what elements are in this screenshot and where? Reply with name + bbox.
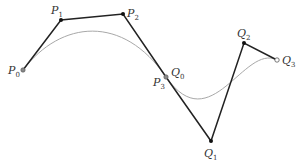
label-q2: Q2 xyxy=(237,27,251,42)
point-p3-q0 xyxy=(164,75,168,79)
label-q1: Q1 xyxy=(204,147,218,162)
label-q0: Q0 xyxy=(171,66,185,81)
control-polygon-p xyxy=(23,14,166,77)
bezier-diagram: P0 P1 P2 P3 Q0 Q1 Q2 Q3 xyxy=(0,0,299,162)
label-p2: P2 xyxy=(126,7,139,22)
point-p0 xyxy=(21,68,25,72)
point-p2 xyxy=(121,12,125,16)
label-p3: P3 xyxy=(152,76,165,91)
point-q1 xyxy=(209,139,213,143)
label-p0: P0 xyxy=(7,64,20,79)
label-p1: P1 xyxy=(50,4,63,19)
control-polygon-q xyxy=(166,43,277,141)
point-q3 xyxy=(275,58,279,62)
bezier-curve-p xyxy=(23,31,166,77)
label-q3: Q3 xyxy=(282,54,296,69)
